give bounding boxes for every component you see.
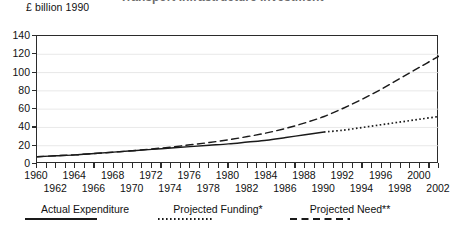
x-tick-mark-1999 <box>409 163 410 168</box>
chart-legend: Actual ExpenditureProjected Funding*Proj… <box>0 203 460 225</box>
x-tick-label-1978: 1978 <box>191 183 225 194</box>
y-tick-label-100: 100 <box>0 67 30 77</box>
x-tick-mark-1978 <box>208 163 209 168</box>
x-tick-mark-1995 <box>371 163 372 168</box>
legend-projected-funding-swatch <box>158 217 278 221</box>
x-tick-mark-1983 <box>256 163 257 168</box>
x-tick-label-1986: 1986 <box>268 183 302 194</box>
x-tick-label-1992: 1992 <box>325 170 359 181</box>
x-tick-mark-2000 <box>419 163 420 168</box>
x-tick-mark-1970 <box>132 163 133 168</box>
x-tick-label-1960: 1960 <box>19 170 53 181</box>
x-tick-mark-1969 <box>122 163 123 168</box>
legend-actual-expenditure-swatch <box>25 217 145 221</box>
chart-title: Transport Infrastructure Investment <box>120 0 323 4</box>
x-tick-mark-1971 <box>141 163 142 168</box>
y-axis-caption: £ billion 1990 <box>26 1 89 13</box>
x-tick-label-1988: 1988 <box>287 170 321 181</box>
x-tick-mark-1960 <box>36 163 37 168</box>
x-tick-label-1990: 1990 <box>306 183 340 194</box>
x-tick-label-1964: 1964 <box>57 170 91 181</box>
x-tick-mark-2002 <box>438 163 439 168</box>
x-tick-mark-1989 <box>314 163 315 168</box>
x-tick-mark-1998 <box>400 163 401 168</box>
y-tick-label-0: 0 <box>0 158 30 168</box>
legend-actual-expenditure-label: Actual Expenditure <box>25 203 145 215</box>
x-tick-mark-1981 <box>237 163 238 168</box>
legend-projected-funding[interactable]: Projected Funding* <box>158 203 278 221</box>
x-tick-label-1980: 1980 <box>210 170 244 181</box>
x-tick-mark-1997 <box>390 163 391 168</box>
y-tick-label-120: 120 <box>0 48 30 58</box>
x-tick-label-1974: 1974 <box>153 183 187 194</box>
y-tick-label-40: 40 <box>0 121 30 131</box>
series-line-solid <box>37 132 324 157</box>
x-tick-mark-1982 <box>247 163 248 168</box>
y-tick-label-60: 60 <box>0 103 30 113</box>
x-tick-label-1984: 1984 <box>249 170 283 181</box>
data-series-layer <box>37 56 439 157</box>
x-tick-label-1996: 1996 <box>364 170 398 181</box>
x-tick-label-1970: 1970 <box>115 183 149 194</box>
x-tick-mark-1984 <box>266 163 267 168</box>
x-tick-mark-1973 <box>160 163 161 168</box>
x-tick-label-2002: 2002 <box>421 183 455 194</box>
legend-projected-need-swatch <box>290 217 410 221</box>
x-tick-label-1982: 1982 <box>230 183 264 194</box>
x-tick-mark-1994 <box>361 163 362 168</box>
x-tick-mark-1980 <box>227 163 228 168</box>
series-line-dotted <box>324 116 439 132</box>
x-tick-mark-1974 <box>170 163 171 168</box>
x-tick-mark-1976 <box>189 163 190 168</box>
x-tick-label-1994: 1994 <box>344 183 378 194</box>
y-tick-label-140: 140 <box>0 30 30 40</box>
x-tick-mark-1961 <box>46 163 47 168</box>
plot-area <box>36 35 438 163</box>
x-tick-mark-1967 <box>103 163 104 168</box>
x-tick-mark-1972 <box>151 163 152 168</box>
x-tick-label-1962: 1962 <box>38 183 72 194</box>
chart-canvas <box>37 36 439 164</box>
x-tick-mark-1987 <box>294 163 295 168</box>
x-tick-mark-1968 <box>113 163 114 168</box>
legend-projected-need[interactable]: Projected Need** <box>290 203 410 221</box>
x-tick-mark-1996 <box>381 163 382 168</box>
legend-actual-expenditure[interactable]: Actual Expenditure <box>25 203 145 221</box>
x-tick-mark-1991 <box>333 163 334 168</box>
x-tick-label-2000: 2000 <box>402 170 436 181</box>
x-tick-mark-1993 <box>352 163 353 168</box>
x-tick-mark-1964 <box>74 163 75 168</box>
x-tick-label-1972: 1972 <box>134 170 168 181</box>
gridlines <box>37 54 439 145</box>
legend-projected-need-label: Projected Need** <box>290 203 410 215</box>
x-tick-mark-1966 <box>93 163 94 168</box>
x-tick-mark-1963 <box>65 163 66 168</box>
x-tick-mark-1977 <box>199 163 200 168</box>
x-tick-mark-1990 <box>323 163 324 168</box>
x-tick-mark-1975 <box>180 163 181 168</box>
x-tick-mark-2001 <box>428 163 429 168</box>
x-tick-mark-1992 <box>342 163 343 168</box>
x-tick-mark-1979 <box>218 163 219 168</box>
y-tick-label-80: 80 <box>0 85 30 95</box>
series-line-dashed <box>37 56 439 157</box>
x-tick-mark-1986 <box>285 163 286 168</box>
x-tick-label-1968: 1968 <box>96 170 130 181</box>
x-tick-mark-1962 <box>55 163 56 168</box>
y-tick-label-20: 20 <box>0 140 30 150</box>
x-tick-mark-1985 <box>275 163 276 168</box>
legend-projected-funding-label: Projected Funding* <box>158 203 278 215</box>
x-tick-label-1966: 1966 <box>76 183 110 194</box>
x-tick-mark-1965 <box>84 163 85 168</box>
x-tick-label-1976: 1976 <box>172 170 206 181</box>
x-tick-mark-1988 <box>304 163 305 168</box>
x-tick-label-1998: 1998 <box>383 183 417 194</box>
